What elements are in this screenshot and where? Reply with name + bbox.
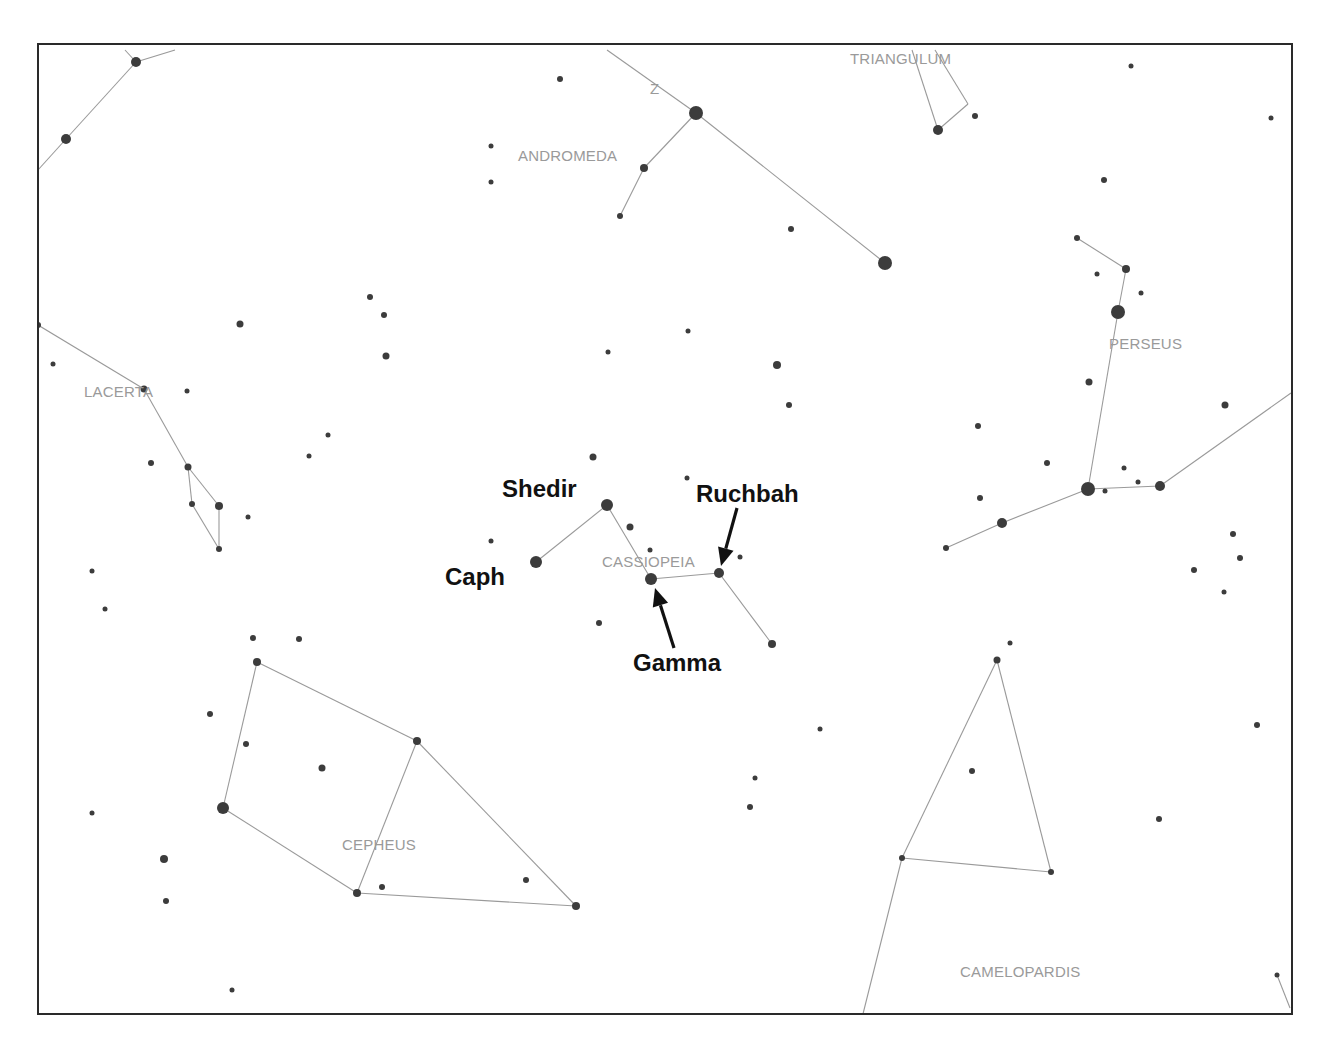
star-icon <box>90 811 95 816</box>
constellation-line <box>188 467 192 504</box>
star-icon <box>243 741 249 747</box>
constellation-line <box>192 504 219 549</box>
star-icon <box>1111 305 1125 319</box>
star-icon <box>1222 590 1227 595</box>
map-frame <box>38 44 1292 1014</box>
star-icon <box>899 855 905 861</box>
star-icon <box>90 569 95 574</box>
star-icon <box>997 518 1007 528</box>
star-icon <box>1095 272 1100 277</box>
constellation-label: Z <box>650 80 659 97</box>
star-icon <box>131 57 141 67</box>
star-icon <box>1136 480 1141 485</box>
star-icon <box>1230 531 1236 537</box>
constellation-line <box>902 858 1051 872</box>
constellation-line <box>38 139 66 170</box>
star-icon <box>601 499 613 511</box>
star-icon <box>972 113 978 119</box>
star-name-label: Shedir <box>502 475 577 502</box>
star-icon <box>596 620 602 626</box>
star-icon <box>185 389 190 394</box>
star-icon <box>367 294 373 300</box>
constellation-line <box>620 168 644 216</box>
star-icon <box>1129 64 1134 69</box>
constellation-line <box>651 573 719 579</box>
constellation-line <box>997 660 1051 872</box>
star-icon <box>590 454 597 461</box>
star-icon <box>786 402 792 408</box>
star-icon <box>1222 402 1229 409</box>
star-icon <box>489 539 494 544</box>
constellation-line <box>863 858 902 1014</box>
star-icon <box>237 321 244 328</box>
star-icon <box>878 256 892 270</box>
constellation-line <box>357 741 417 893</box>
star-icon <box>818 727 823 732</box>
star-icon <box>61 134 71 144</box>
star-icon <box>379 884 385 890</box>
star-icon <box>307 454 312 459</box>
star-icon <box>207 711 213 717</box>
constellation-label: CAMELOPARDIS <box>960 963 1080 980</box>
star-icon <box>189 501 195 507</box>
star-icon <box>216 546 222 552</box>
constellation-line <box>1077 238 1126 269</box>
star-icon <box>645 573 657 585</box>
star-icon <box>606 350 611 355</box>
star-icon <box>640 164 648 172</box>
star-icon <box>103 607 108 612</box>
star-icon <box>1155 481 1165 491</box>
constellation-line <box>66 62 136 139</box>
star-icon <box>788 226 794 232</box>
constellation-line <box>223 662 257 808</box>
star-icon <box>230 988 235 993</box>
constellation-line <box>38 325 144 389</box>
star-icon <box>1191 567 1197 573</box>
arrow-icon <box>653 588 674 648</box>
star-icon <box>1275 973 1280 978</box>
star-icon <box>413 737 421 745</box>
star-icon <box>686 329 691 334</box>
star-icon <box>685 476 690 481</box>
star-icon <box>381 312 387 318</box>
star-icon <box>246 515 251 520</box>
star-icon <box>975 423 981 429</box>
star-icon <box>1101 177 1107 183</box>
star-icon <box>383 353 390 360</box>
star-icon <box>738 555 743 560</box>
star-icon <box>1086 379 1093 386</box>
star-icon <box>1122 265 1130 273</box>
star-icon <box>489 144 494 149</box>
star-icon <box>689 106 703 120</box>
star-icon <box>51 362 56 367</box>
star-icon <box>1074 235 1080 241</box>
star-icon <box>1122 466 1127 471</box>
constellation-line <box>144 389 188 467</box>
constellation-line <box>417 741 576 906</box>
constellation-line <box>938 104 968 130</box>
constellation-label: ANDROMEDA <box>518 147 617 164</box>
constellation-line <box>719 573 772 644</box>
constellation-label: CASSIOPEIA <box>602 553 695 570</box>
constellation-line <box>223 808 357 893</box>
star-name-label: Ruchbah <box>696 480 799 507</box>
stars <box>35 57 1280 993</box>
constellation-line <box>357 893 576 906</box>
star-icon <box>572 902 580 910</box>
star-icon <box>747 804 753 810</box>
star-icon <box>1139 291 1144 296</box>
star-icon <box>1237 555 1243 561</box>
map-content: TRIANGULUMANDROMEDAPERSEUSLACERTACASSIOP… <box>35 50 1291 1014</box>
star-icon <box>148 460 154 466</box>
star-icon <box>714 568 724 578</box>
arrow-icon <box>718 508 737 566</box>
star-name-label: Caph <box>445 563 505 590</box>
constellation-lines <box>38 50 1291 1014</box>
star-icon <box>933 125 943 135</box>
star-icon <box>557 76 563 82</box>
star-icon <box>523 877 529 883</box>
star-icon <box>1044 460 1050 466</box>
constellation-line <box>696 113 885 263</box>
star-icon <box>353 889 361 897</box>
star-icon <box>753 776 758 781</box>
